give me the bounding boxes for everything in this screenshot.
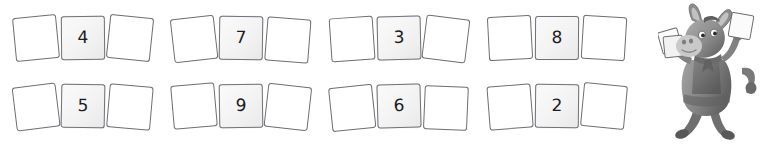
card-group-2[interactable]: 7 [172, 12, 312, 68]
blank-card-right-value [107, 84, 153, 130]
blank-card-right-value [265, 17, 310, 62]
card-group-8[interactable]: 2 [488, 80, 628, 136]
number-card-value: 5 [62, 85, 105, 128]
number-card[interactable]: 6 [376, 83, 421, 128]
card-group-1[interactable]: 4 [14, 12, 154, 68]
number-card[interactable]: 4 [61, 16, 105, 60]
number-card-value: 4 [62, 17, 104, 59]
number-card[interactable]: 5 [61, 84, 106, 129]
number-card[interactable]: 2 [535, 84, 579, 128]
blank-card-right[interactable] [264, 16, 311, 63]
number-card-value: 3 [378, 17, 421, 60]
donkey-head [676, 4, 732, 58]
number-card-value: 9 [220, 85, 263, 128]
blank-card-right[interactable] [581, 15, 628, 62]
blank-card-right-value [422, 16, 469, 63]
blank-card-right-value [582, 16, 626, 60]
blank-card-right[interactable] [106, 83, 154, 131]
blank-card-right-value [581, 83, 627, 129]
card-group-4[interactable]: 8 [488, 12, 628, 68]
blank-card-left[interactable] [12, 82, 61, 131]
blank-card-right[interactable] [264, 83, 313, 132]
blank-card-left-value [13, 15, 59, 61]
number-card[interactable]: 8 [535, 16, 579, 60]
blank-card-left-value [13, 84, 60, 131]
card-group-6[interactable]: 9 [172, 80, 312, 136]
number-card-value: 7 [220, 17, 263, 60]
card-grid: 4 7 3 8 5 9 [0, 0, 660, 144]
blank-card-left[interactable] [329, 16, 376, 63]
number-card-value: 8 [536, 17, 578, 59]
number-card[interactable]: 7 [219, 16, 264, 61]
blank-card-left[interactable] [486, 83, 533, 130]
blank-card-left-value [171, 83, 217, 129]
card-group-7[interactable]: 6 [330, 80, 470, 136]
blank-card-left[interactable] [328, 84, 376, 132]
donkey-mascot-illustration [658, 2, 764, 142]
worksheet-canvas: 4 7 3 8 5 9 [0, 0, 768, 144]
blank-card-left[interactable] [170, 82, 218, 130]
blank-card-right-value [265, 84, 311, 130]
blank-card-left-value [171, 16, 217, 62]
blank-card-right[interactable] [423, 85, 469, 131]
blank-card-left-value [329, 85, 375, 131]
number-card-value: 2 [536, 85, 578, 127]
card-group-3[interactable]: 3 [330, 12, 470, 68]
held-card-right [728, 12, 754, 39]
blank-card-right-value [107, 15, 153, 61]
blank-card-right[interactable] [421, 14, 470, 63]
number-card[interactable]: 9 [219, 84, 264, 129]
blank-card-right-value [424, 86, 468, 130]
number-card[interactable]: 3 [377, 16, 422, 61]
donkey-tail [742, 68, 757, 94]
blank-card-left[interactable] [487, 15, 533, 61]
blank-card-left-value [330, 17, 375, 62]
card-group-5[interactable]: 5 [14, 80, 154, 136]
number-card-value: 6 [377, 84, 420, 127]
blank-card-right[interactable] [106, 14, 154, 62]
blank-card-left-value [488, 16, 532, 60]
blank-card-left[interactable] [170, 15, 219, 64]
blank-card-right[interactable] [580, 82, 628, 130]
blank-card-left-value [487, 84, 532, 129]
blank-card-left[interactable] [12, 14, 60, 62]
